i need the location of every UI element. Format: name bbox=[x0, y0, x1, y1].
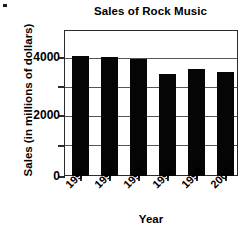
y-axis-tick-labels: 4000 2000 0 bbox=[14, 30, 60, 176]
bars-layer bbox=[64, 30, 238, 176]
bar-1995 bbox=[72, 56, 89, 176]
x-axis-label: Year bbox=[64, 213, 238, 225]
y-axis-label: Sales (in millions of dollars) bbox=[22, 20, 34, 180]
bar-1998 bbox=[159, 74, 176, 176]
scan-artifact-speck bbox=[3, 4, 7, 7]
bar-1997 bbox=[130, 59, 147, 176]
bar-1996 bbox=[101, 57, 118, 176]
bar-1999 bbox=[188, 69, 205, 176]
bar-2000 bbox=[217, 72, 234, 176]
chart-title: Sales of Rock Music bbox=[58, 5, 243, 17]
bar-chart-figure: Sales of Rock Music 4000 2000 0 Sales (i… bbox=[0, 0, 252, 231]
